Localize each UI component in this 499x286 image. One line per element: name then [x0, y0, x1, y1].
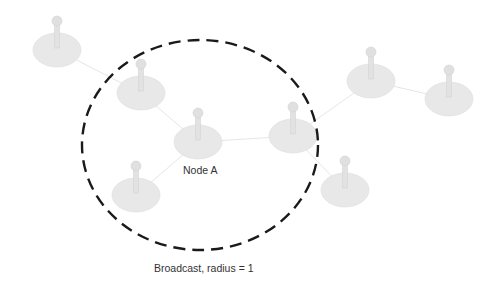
diagram-caption: Broadcast, radius = 1: [154, 262, 254, 274]
node-n5: [112, 161, 160, 212]
node-n8: [425, 65, 473, 116]
network-diagram: [0, 0, 499, 286]
node-a-label: Node A: [183, 164, 217, 176]
node-n6: [321, 156, 369, 207]
node-n2: [117, 59, 165, 110]
node-n7: [347, 47, 395, 98]
nodes: [33, 16, 473, 212]
node-n4: [269, 102, 317, 153]
node-n1: [33, 16, 81, 67]
node-nodeA: [174, 108, 222, 159]
